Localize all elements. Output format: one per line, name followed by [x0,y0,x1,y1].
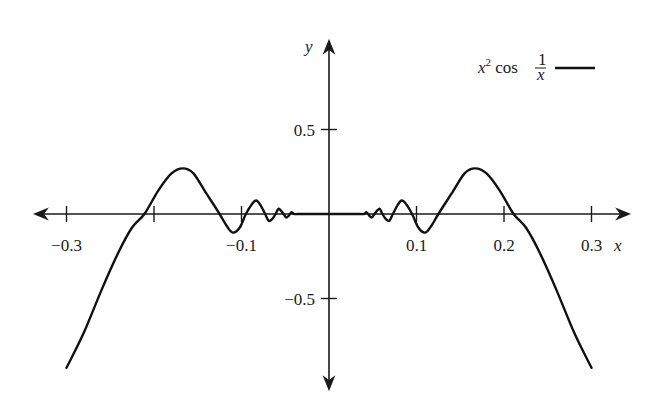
y-axis-label: y [303,37,313,56]
legend-label: x2 cos [477,56,518,77]
x-tick-label: 0.1 [406,236,427,255]
x-tick-label: −0.3 [51,236,82,255]
chart-canvas: −0.3−0.10.10.20.3 0.5−0.5 x y x2 cos 1 x [0,0,662,419]
y-tick-label: −0.5 [284,290,315,309]
y-tick-label: 0.5 [294,121,315,140]
x-axis-label: x [613,236,622,255]
x-tick-label: 0.2 [493,236,514,255]
legend: x2 cos 1 x [477,50,595,84]
x-tick-label: 0.3 [581,236,602,255]
x-tick-label: −0.1 [226,236,257,255]
legend-frac-den: x [536,65,545,84]
